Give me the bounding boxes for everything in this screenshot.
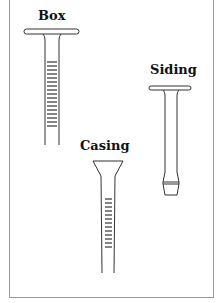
nail-diagram [0, 0, 222, 303]
siding-nail-illustration [149, 86, 191, 195]
box-nail-illustration [24, 29, 79, 145]
casing-nail-illustration [93, 161, 123, 273]
